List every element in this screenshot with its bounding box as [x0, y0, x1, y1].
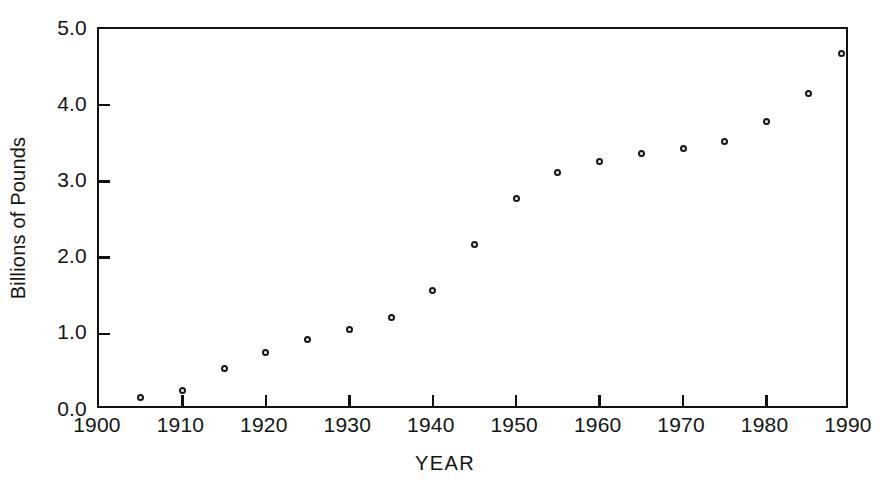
y-axis-tick: [99, 180, 110, 183]
scatter-chart: 1900191019201930194019501960197019801990…: [0, 0, 890, 489]
data-point: [388, 314, 395, 321]
data-point: [221, 365, 228, 372]
x-axis-tick-label: 1980: [725, 412, 805, 438]
data-point-layer: [99, 29, 846, 406]
data-point: [680, 145, 687, 152]
x-axis-tick: [181, 395, 184, 406]
x-axis-tick-label: 1960: [558, 412, 638, 438]
x-axis-tick: [265, 395, 268, 406]
x-axis-tick-label: 1990: [808, 412, 888, 438]
x-axis-tick-label: 1930: [307, 412, 387, 438]
x-axis-tick: [765, 395, 768, 406]
data-point: [721, 138, 728, 145]
data-point: [805, 90, 812, 97]
data-point: [596, 158, 603, 165]
data-point: [346, 326, 353, 333]
data-point: [763, 118, 770, 125]
x-axis-tick-label: 1940: [391, 412, 471, 438]
y-axis-tick: [99, 333, 110, 336]
y-axis-tick-label: 5.0: [17, 17, 87, 38]
x-axis-tick-label: 1950: [474, 412, 554, 438]
x-axis-tick: [515, 395, 518, 406]
data-point: [513, 195, 520, 202]
y-axis-tick: [99, 104, 110, 107]
y-axis-tick: [99, 256, 110, 259]
x-axis-title: YEAR: [0, 452, 890, 475]
x-axis-tick: [432, 395, 435, 406]
data-point: [179, 387, 186, 394]
data-point: [304, 336, 311, 343]
y-axis-title: Billions of Pounds: [7, 137, 30, 300]
data-point: [137, 394, 144, 401]
y-axis-tick-label: 4.0: [17, 93, 87, 114]
x-axis-tick-label: 1970: [641, 412, 721, 438]
data-point: [471, 241, 478, 248]
y-axis-tick-label: 1.0: [17, 321, 87, 342]
x-axis-tick-label: 1910: [140, 412, 220, 438]
data-point: [554, 169, 561, 176]
data-point: [838, 50, 845, 57]
data-point: [262, 349, 269, 356]
y-axis-tick-label: 0.0: [17, 398, 87, 419]
plot-area: [97, 27, 848, 408]
x-axis-tick-label: 1920: [224, 412, 304, 438]
data-point: [638, 150, 645, 157]
x-axis-tick: [348, 395, 351, 406]
x-axis-tick: [598, 395, 601, 406]
x-axis-tick: [682, 395, 685, 406]
data-point: [429, 287, 436, 294]
